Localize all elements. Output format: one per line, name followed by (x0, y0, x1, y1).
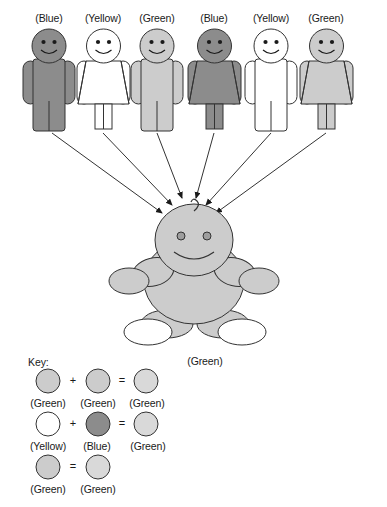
figure-eye-left (319, 40, 323, 44)
key-title: Key: (28, 356, 49, 368)
figure-eye-right (274, 40, 278, 44)
key-swatch-r3-c1 (36, 455, 60, 479)
figure-head (310, 29, 344, 63)
figure-eye-left (207, 40, 211, 44)
key-swatch-r2-c3 (134, 412, 158, 436)
parent-label-2: (Yellow) (85, 12, 121, 24)
parent-label-3: (Green) (139, 12, 174, 24)
figure-eye-right (330, 40, 334, 44)
key-operator-equals-r3: = (70, 460, 76, 472)
key-swatch-r2-c1 (36, 412, 60, 436)
figure-eye-left (96, 40, 100, 44)
baby-foot-left (124, 319, 172, 345)
parent-label-5: (Yellow) (253, 12, 289, 24)
key-operator-plus-r2: + (70, 417, 76, 429)
key-swatch-r1-c2 (86, 369, 110, 393)
child-label: (Green) (187, 355, 222, 367)
figure-eye-left (149, 40, 153, 44)
figure-eye-right (160, 40, 164, 44)
key-swatch-r2-c2 (86, 412, 110, 436)
baby-hand-right (239, 268, 279, 294)
parent-label-1: (Blue) (35, 12, 62, 24)
key-operator-equals-r2: = (119, 417, 125, 429)
key-label-r3-c2: (Green) (80, 483, 115, 495)
figure-head (87, 29, 121, 63)
parent-label-4: (Blue) (200, 12, 227, 24)
key-label-r2-c2: (Blue) (83, 440, 110, 452)
key-label-r3-c1: (Green) (30, 483, 65, 495)
key-operator-equals-r1: = (119, 374, 125, 386)
baby-eye-right (203, 232, 211, 240)
figure-head (254, 29, 288, 63)
figure-eye-right (52, 40, 56, 44)
key-label-r2-c3: (Green) (130, 440, 165, 452)
figure-eye-right (218, 40, 222, 44)
key-swatch-r3-c2 (86, 455, 110, 479)
key-label-r2-c1: (Yellow) (30, 440, 66, 452)
figure-head (32, 29, 66, 63)
figure-dress (301, 61, 352, 104)
baby-hand-left (109, 268, 149, 294)
figure-dress (78, 61, 129, 104)
figure-eye-right (107, 40, 111, 44)
figure-head (198, 29, 232, 63)
key-swatch-r1-c1 (36, 369, 60, 393)
key-operator-plus-r1: + (70, 374, 76, 386)
baby-head (155, 204, 233, 276)
baby-foot-right (218, 319, 266, 345)
parent-label-6: (Green) (308, 12, 343, 24)
figure-dress (189, 61, 240, 104)
key-label-r1-c1: (Green) (30, 397, 65, 409)
baby-eye-left (177, 232, 185, 240)
figure-eye-left (263, 40, 267, 44)
key-label-r1-c2: (Green) (80, 397, 115, 409)
genetics-inheritance-diagram (0, 0, 387, 507)
key-swatch-r1-c3 (134, 369, 158, 393)
key-label-r1-c3: (Green) (129, 397, 164, 409)
figure-head (140, 29, 174, 63)
figure-eye-left (41, 40, 45, 44)
